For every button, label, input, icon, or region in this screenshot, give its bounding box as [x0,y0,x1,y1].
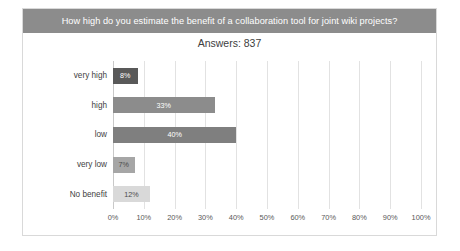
bar-value-label: 12% [124,190,138,199]
bar-category-label: No benefit [70,190,107,199]
bar-row: low40% [113,120,421,150]
bar-value-label: 7% [119,160,129,169]
chart-header-bar: How high do you estimate the benefit of … [23,9,436,33]
x-tick-label: 70% [321,213,336,222]
x-tick-label: 60% [290,213,305,222]
chart-plot-wrapper: very high8%high33%low40%very low7%No ben… [23,57,436,237]
chart-card: How high do you estimate the benefit of … [22,8,437,236]
bar-series: very high8%high33%low40%very low7%No ben… [113,61,421,209]
plot-area: very high8%high33%low40%very low7%No ben… [113,61,421,209]
x-tick-label: 90% [383,213,398,222]
x-axis-ticks: 0%10%20%30%40%50%60%70%80%90%100% [113,213,421,227]
bar-row: No benefit12% [113,179,421,209]
bar: 8% [113,68,138,84]
bar-row: very low7% [113,150,421,180]
bar-row: high33% [113,91,421,121]
x-tick-label: 50% [260,213,275,222]
bar-category-label: very high [74,71,107,80]
x-tick-label: 20% [167,213,182,222]
bar-category-label: very low [77,160,107,169]
bar-value-label: 33% [157,101,171,110]
chart-title: How high do you estimate the benefit of … [62,16,398,26]
x-tick-label: 40% [229,213,244,222]
bar-value-label: 40% [167,130,181,139]
bar: 33% [113,97,215,113]
chart-subtitle-answers: Answers: 837 [23,37,436,49]
gridline-100 [421,61,422,209]
bar-category-label: high [92,101,107,110]
x-tick-label: 100% [412,213,431,222]
x-tick-label: 10% [136,213,151,222]
x-tick-label: 0% [108,213,119,222]
bar: 40% [113,127,236,143]
bar-category-label: low [95,130,107,139]
bar-value-label: 8% [120,71,130,80]
bar: 12% [113,186,150,202]
bar: 7% [113,157,135,173]
x-tick-label: 80% [352,213,367,222]
x-tick-label: 30% [198,213,213,222]
bar-row: very high8% [113,61,421,91]
